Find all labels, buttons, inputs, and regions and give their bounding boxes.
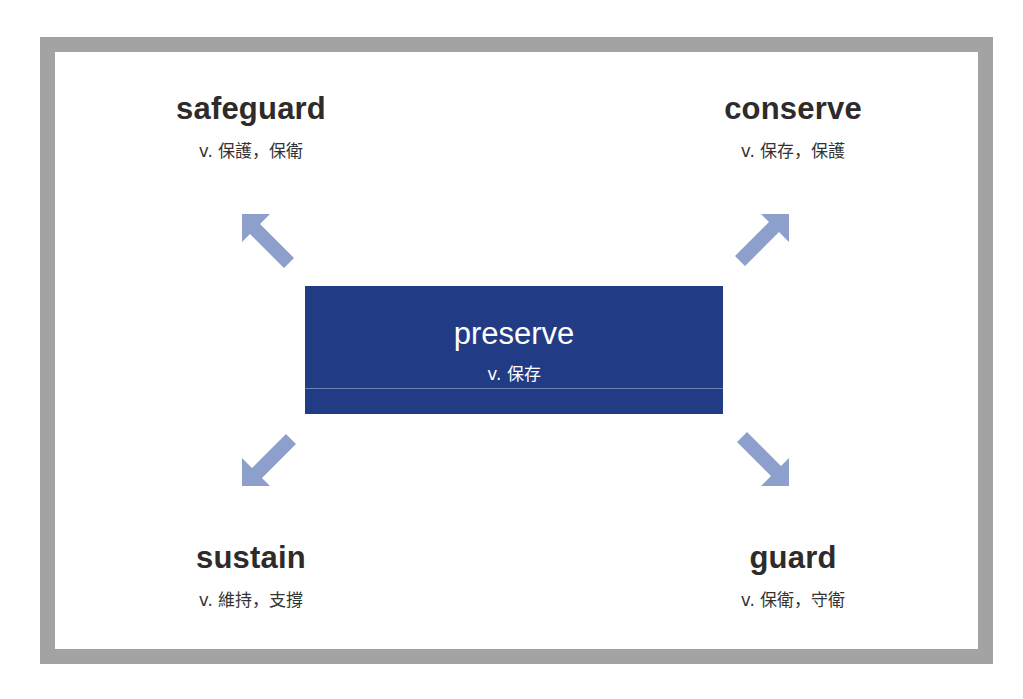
- center-term-box: preserve v. 保存: [305, 286, 723, 414]
- term-word: conserve: [663, 91, 923, 127]
- term-word: safeguard: [121, 91, 381, 127]
- term-word: guard: [663, 540, 923, 576]
- term-definition: v. 保護，保衛: [121, 137, 381, 162]
- term-definition: v. 維持，支撐: [121, 586, 381, 611]
- divider-line: [305, 388, 723, 389]
- arrow-up-right-icon: [735, 212, 791, 268]
- arrow-up-left-icon: [240, 212, 296, 268]
- arrow-down-left-icon: [240, 432, 296, 488]
- term-sustain: sustain v. 維持，支撐: [121, 540, 381, 611]
- arrow-down-right-icon: [735, 432, 791, 488]
- term-conserve: conserve v. 保存，保護: [663, 91, 923, 162]
- term-word: sustain: [121, 540, 381, 576]
- term-guard: guard v. 保衛，守衛: [663, 540, 923, 611]
- term-definition: v. 保衛，守衛: [663, 586, 923, 611]
- center-word: preserve: [305, 316, 723, 352]
- term-safeguard: safeguard v. 保護，保衛: [121, 91, 381, 162]
- center-definition: v. 保存: [305, 360, 723, 385]
- term-definition: v. 保存，保護: [663, 137, 923, 162]
